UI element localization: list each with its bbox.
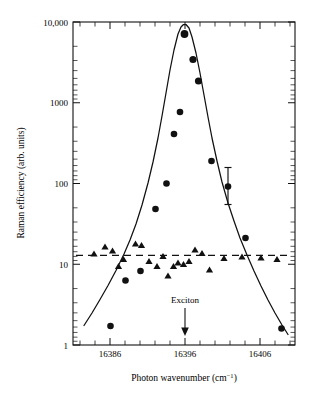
data-point-triangle (185, 258, 192, 264)
data-point-triangle (191, 247, 198, 253)
data-point-triangle (101, 244, 108, 250)
y-tick-label-10000: 10,000 (43, 18, 68, 28)
exciton-arrow-head-icon (181, 328, 189, 337)
y-tick-label-1000: 1000 (50, 98, 69, 108)
data-point-triangle (153, 263, 160, 269)
x-tick-label-16406: 16406 (249, 349, 272, 359)
data-point-triangle (198, 250, 205, 256)
data-point-triangle (115, 263, 122, 269)
data-point-triangle (90, 251, 97, 257)
data-point-triangle (273, 256, 280, 262)
y-tick-labels: 10,000 1000 100 10 1 (43, 18, 68, 351)
data-point-circle (189, 56, 196, 63)
y-tick-label-100: 100 (55, 179, 69, 189)
data-point-circle (208, 158, 215, 165)
x-axis-title: Photon wavenumber (cm−1) (131, 372, 237, 385)
exciton-annotation: Exciton (171, 295, 199, 336)
data-point-circle (163, 180, 170, 187)
data-point-triangle (132, 241, 139, 247)
figure-container: 10,000 1000 100 10 1 16386 16396 16406 P… (0, 0, 316, 403)
x-tick-labels: 16386 16396 16406 (99, 349, 272, 359)
y-axis-title: Raman efficiency (arb. units) (16, 127, 27, 238)
x-axis-title-close: ) (234, 373, 237, 384)
data-point-circle (107, 323, 114, 330)
data-point-triangle (238, 254, 245, 260)
data-point-triangle (206, 267, 213, 273)
data-point-circle (137, 268, 144, 275)
data-point-circle (181, 30, 189, 38)
raman-efficiency-chart: 10,000 1000 100 10 1 16386 16396 16406 P… (0, 0, 316, 403)
data-point-triangle (145, 258, 152, 264)
data-point-triangle (159, 253, 166, 259)
background-points (90, 241, 280, 279)
y-tick-label-10: 10 (59, 260, 69, 270)
lorentzian-fit-curve (84, 25, 288, 335)
data-point-circle (152, 206, 159, 213)
data-point-circle (278, 325, 285, 332)
data-point-triangle (109, 248, 116, 254)
data-point-circle (195, 77, 202, 84)
x-tick-label-16386: 16386 (99, 349, 122, 359)
data-point-circle (122, 277, 129, 284)
x-axis-title-main: Photon wavenumber (cm (131, 373, 227, 384)
data-point-triangle (138, 242, 145, 248)
y-tick-label-1: 1 (64, 341, 69, 351)
data-point-triangle (164, 273, 171, 279)
raman-efficiency-points (107, 30, 285, 332)
data-point-circle (242, 235, 249, 242)
x-axis-title-superscript: −1 (227, 372, 234, 379)
exciton-label: Exciton (171, 295, 199, 305)
data-point-circle (177, 109, 184, 116)
data-point-circle (171, 131, 178, 138)
data-point-circle (225, 183, 232, 190)
data-point-triangle (174, 260, 181, 266)
x-tick-label-16396: 16396 (174, 349, 197, 359)
